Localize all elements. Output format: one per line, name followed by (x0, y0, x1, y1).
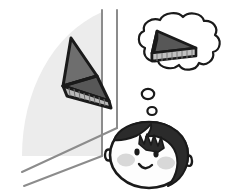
right-cheek (157, 157, 175, 170)
illustration-root: Child mentally rotating a triangular pri… (0, 0, 225, 193)
child-face (105, 122, 192, 188)
thought-dot-small (147, 107, 156, 115)
thought-dot-large (142, 89, 154, 99)
thought-bubble (139, 13, 220, 70)
left-cheek (117, 154, 135, 167)
right-eye-icon (153, 151, 158, 158)
floor-line-near (24, 156, 102, 186)
scene-canvas (0, 0, 225, 193)
thought-prism (152, 31, 196, 61)
left-eye-icon (134, 149, 139, 156)
